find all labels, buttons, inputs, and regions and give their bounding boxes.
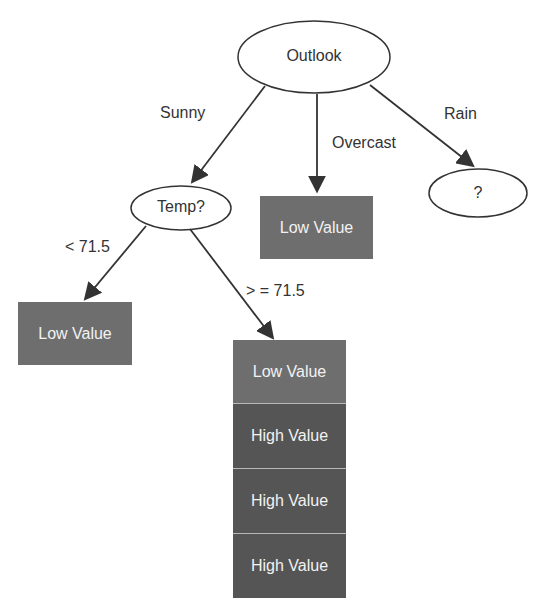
edge-label-lt: < 71.5 (65, 238, 110, 256)
ge-stack-item: Low Value (233, 340, 346, 403)
ge-stack-item: High Value (233, 468, 346, 533)
ge-stack-item: High Value (233, 403, 346, 468)
lt-leaf: Low Value (18, 302, 132, 365)
outlook-node: Outlook (238, 47, 390, 65)
overcast-leaf: Low Value (260, 196, 373, 259)
rain-node: ? (429, 184, 527, 202)
edge-label-sunny: Sunny (160, 104, 205, 122)
edge-label-overcast: Overcast (332, 134, 396, 152)
temp-node: Temp? (131, 198, 231, 216)
edge-label-rain: Rain (444, 105, 477, 123)
edge-label-ge: > = 71.5 (246, 282, 305, 300)
ge-stack-item: High Value (233, 533, 346, 598)
